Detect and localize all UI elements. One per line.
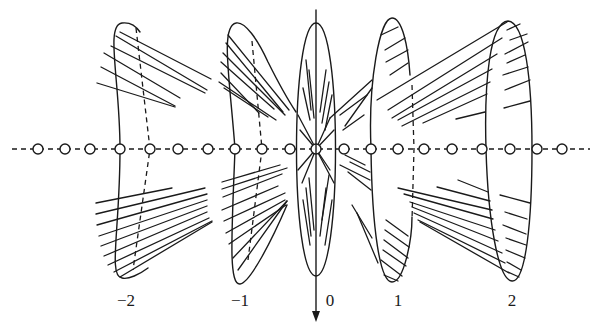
hatch-line: [390, 63, 408, 75]
hatch-line: [510, 34, 527, 40]
hatch-line: [503, 225, 526, 234]
hatch-line: [414, 213, 502, 253]
hatch-line: [385, 38, 405, 50]
cone-minus-1: [219, 23, 296, 284]
hatch-line: [503, 67, 528, 75]
hatch-line: [222, 186, 278, 210]
axis-node-circle: [419, 144, 429, 154]
hatch-line: [330, 80, 372, 118]
hatch-line: [386, 50, 408, 62]
axis-node-circle: [60, 144, 70, 154]
axis-node-circle: [115, 144, 125, 154]
axis-node-circle: [145, 144, 155, 154]
hatch-line: [120, 222, 212, 277]
hatch-line: [108, 218, 209, 265]
hatch-line: [388, 38, 502, 110]
axis-node-circle: [557, 144, 567, 154]
axis-node-circle: [257, 144, 267, 154]
hatch-line: [505, 80, 530, 90]
hatch-line: [500, 195, 530, 203]
hatch-line: [226, 43, 283, 112]
hatch-line: [507, 262, 521, 270]
hatch-line: [114, 221, 212, 272]
hatch-line: [377, 22, 507, 100]
axis-node-circle: [366, 144, 376, 154]
position-label: 1: [394, 291, 403, 310]
axis-node-circle: [230, 144, 240, 154]
hatch-line: [384, 240, 408, 258]
hatch-line: [343, 115, 364, 130]
hatch-line: [111, 46, 205, 93]
axis-node-circle: [85, 144, 95, 154]
hatch-line: [228, 35, 289, 110]
hatch-line: [508, 272, 519, 277]
axis-node-circle: [477, 144, 487, 154]
hatch-line: [316, 149, 334, 183]
hatch-line: [505, 212, 527, 219]
cone-outline: [371, 18, 412, 282]
axis-node-circle: [339, 144, 349, 154]
axis-node-circle: [447, 144, 457, 154]
hatch-line: [219, 82, 276, 120]
cone-diagram: −2−1012: [0, 0, 599, 333]
hatch-line: [350, 162, 370, 172]
axis-node-circle: [532, 144, 542, 154]
hatch-line: [96, 188, 172, 203]
hatch-line: [233, 201, 287, 258]
axis-node-circle: [173, 144, 183, 154]
hatch-line: [504, 101, 530, 108]
axis-node-circle: [285, 144, 295, 154]
hatch-line: [456, 112, 485, 119]
position-label: 2: [508, 291, 517, 310]
axis-node-circle: [393, 144, 403, 154]
hatch-line: [385, 230, 409, 247]
hatch-line: [423, 94, 487, 123]
hatch-line: [352, 205, 372, 238]
hatch-line: [99, 200, 207, 236]
arrow-down-icon: [312, 311, 320, 322]
hatch-line: [506, 250, 525, 258]
hatch-line: [97, 83, 175, 107]
axis-node-circle: [505, 144, 515, 154]
hatch-line: [345, 88, 372, 126]
hatch-line: [298, 115, 316, 149]
position-label: −2: [117, 291, 135, 310]
axis-node-circle: [33, 144, 43, 154]
hatch-line: [322, 175, 329, 220]
hatch-line: [506, 238, 526, 245]
position-label: −1: [231, 291, 249, 310]
axis-node-circle: [203, 144, 213, 154]
hatch-line: [458, 180, 488, 192]
hatch-line: [120, 32, 211, 79]
position-label: 0: [326, 291, 335, 310]
hatch-line: [345, 155, 365, 165]
hatch-line: [507, 55, 525, 63]
